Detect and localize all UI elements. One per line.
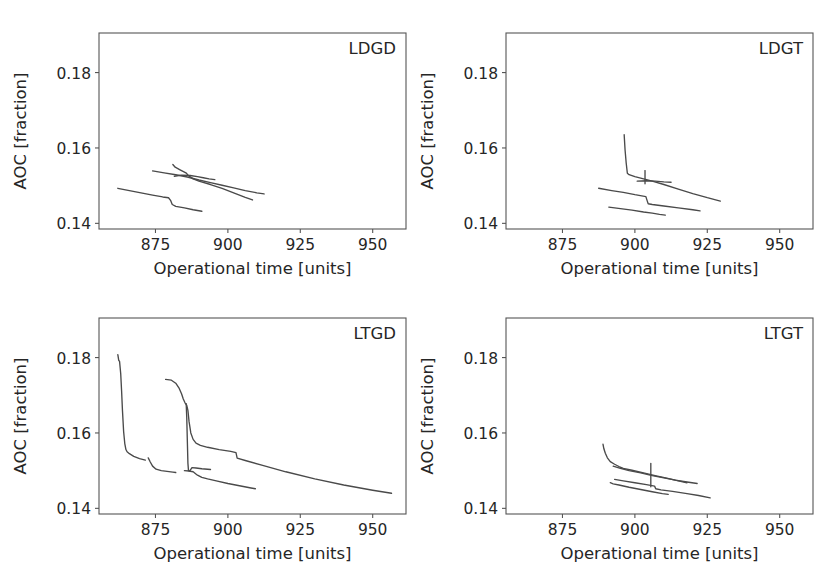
y-tick-label: 0.18 <box>463 350 498 368</box>
y-tick-label: 0.16 <box>56 140 91 158</box>
data-series-line <box>148 458 176 473</box>
x-axis-label: Operational time [units] <box>560 259 758 278</box>
y-tick-label: 0.14 <box>463 215 498 233</box>
x-tick-label: 875 <box>141 521 171 539</box>
y-axis-label: AOC [fraction] <box>418 357 437 474</box>
y-tick-label: 0.18 <box>56 65 91 83</box>
x-axis-label: Operational time [units] <box>560 544 758 563</box>
x-tick-label: 925 <box>285 236 315 254</box>
figure-canvas: 8759009259500.140.160.18Operational time… <box>0 0 827 575</box>
data-series-line <box>615 479 711 497</box>
data-series-line <box>173 165 253 200</box>
y-tick-label: 0.14 <box>56 215 91 233</box>
subplot-bottom-right: 8759009259500.140.160.18Operational time… <box>407 285 827 575</box>
y-tick-label: 0.14 <box>56 500 91 518</box>
panel-label-ldgd: LDGD <box>349 39 396 58</box>
data-series-line <box>118 188 202 211</box>
y-tick-label: 0.16 <box>463 140 498 158</box>
subplot-bottom-left: 8759009259500.140.160.18Operational time… <box>0 285 420 575</box>
plot-ltgt: 8759009259500.140.160.18Operational time… <box>407 285 827 575</box>
axes-frame <box>506 318 813 514</box>
x-tick-label: 900 <box>620 521 650 539</box>
data-series-line <box>118 355 146 461</box>
x-tick-label: 950 <box>765 521 795 539</box>
x-tick-label: 875 <box>141 236 171 254</box>
data-series-line <box>610 483 668 495</box>
panel-label-ltgt: LTGT <box>764 324 804 343</box>
y-tick-label: 0.18 <box>56 350 91 368</box>
axes-frame <box>99 318 406 514</box>
y-axis-label: AOC [fraction] <box>11 357 30 474</box>
x-tick-label: 875 <box>548 236 578 254</box>
x-axis-label: Operational time [units] <box>153 544 351 563</box>
axes-frame <box>506 33 813 229</box>
data-series-line <box>603 444 687 482</box>
panel-label-ltgd: LTGD <box>354 324 397 343</box>
x-tick-label: 950 <box>358 236 388 254</box>
y-axis-label: AOC [fraction] <box>418 72 437 189</box>
x-tick-label: 900 <box>213 236 243 254</box>
y-tick-label: 0.16 <box>56 425 91 443</box>
data-series-line <box>609 207 665 215</box>
y-tick-label: 0.16 <box>463 425 498 443</box>
subplot-top-left: 8759009259500.140.160.18Operational time… <box>0 0 420 290</box>
x-axis-label: Operational time [units] <box>153 259 351 278</box>
data-series-line <box>153 171 264 194</box>
y-tick-label: 0.18 <box>463 65 498 83</box>
x-tick-label: 925 <box>285 521 315 539</box>
y-tick-label: 0.14 <box>463 500 498 518</box>
subplot-top-right: 8759009259500.140.160.18Operational time… <box>407 0 827 290</box>
y-axis-label: AOC [fraction] <box>11 72 30 189</box>
x-tick-label: 925 <box>692 236 722 254</box>
plot-ldgd: 8759009259500.140.160.18Operational time… <box>0 0 420 290</box>
x-tick-label: 900 <box>213 521 243 539</box>
plot-ltgd: 8759009259500.140.160.18Operational time… <box>0 285 420 575</box>
x-tick-label: 875 <box>548 521 578 539</box>
data-series-line <box>186 404 210 471</box>
panel-label-ldgt: LDGT <box>759 39 804 58</box>
plot-ldgt: 8759009259500.140.160.18Operational time… <box>407 0 827 290</box>
x-tick-label: 900 <box>620 236 650 254</box>
data-series-line <box>184 471 255 489</box>
x-tick-label: 925 <box>692 521 722 539</box>
data-series-line <box>624 135 720 201</box>
x-tick-label: 950 <box>765 236 795 254</box>
x-tick-label: 950 <box>358 521 388 539</box>
